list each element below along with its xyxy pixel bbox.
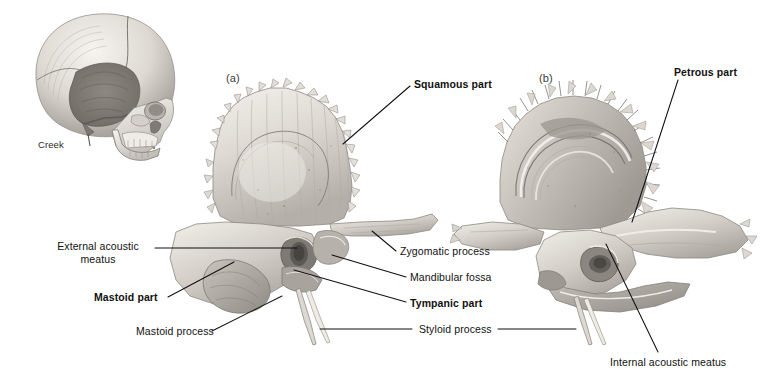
label-squamous-part: Squamous part <box>414 78 492 91</box>
label-internal-acoustic-meatus: Internal acoustic meatus <box>610 356 726 369</box>
label-external-acoustic-meatus-text: External acoustic meatus <box>57 240 139 265</box>
label-external-acoustic-meatus: External acoustic meatus <box>46 240 150 265</box>
panel-label-b: (b) <box>539 72 553 85</box>
label-zygomatic-process: Zygomatic process <box>400 245 490 258</box>
panel-label-a: (a) <box>226 72 240 85</box>
artist-signature: Creek <box>38 139 64 152</box>
label-mandibular-fossa: Mandibular fossa <box>410 271 492 284</box>
label-mastoid-process: Mastoid process <box>136 325 214 338</box>
label-styloid-process: Styloid process <box>419 323 492 336</box>
label-mastoid-part: Mastoid part <box>94 291 158 304</box>
label-tympanic-part: Tympanic part <box>410 297 482 310</box>
temporal-bone-illustration <box>0 0 766 384</box>
figure-canvas: (a) (b) Creek Squamous part Petrous part… <box>0 0 766 384</box>
label-petrous-part: Petrous part <box>674 66 737 79</box>
